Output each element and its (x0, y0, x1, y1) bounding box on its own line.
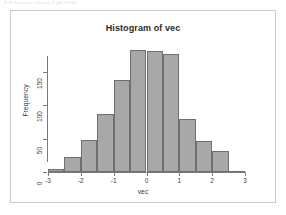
x-axis-tick (245, 172, 246, 176)
x-axis-tick-label: 0 (140, 177, 154, 184)
histogram-bar (212, 151, 228, 172)
y-axis-tick-label: 150 (36, 71, 43, 95)
x-axis-tick (48, 172, 49, 176)
x-axis-tick-label: 3 (238, 177, 252, 184)
histogram-bar (196, 141, 212, 172)
histogram-bar (81, 140, 97, 172)
y-axis-tick-label: 100 (36, 105, 43, 129)
x-axis-tick (212, 172, 213, 176)
histogram-bar (97, 114, 113, 172)
histogram-bar (130, 50, 146, 172)
x-axis-label: vec (11, 188, 275, 195)
histogram-bar (64, 157, 80, 172)
y-axis-tick (43, 72, 47, 73)
plot-frame: Histogram of vec 050100150 Frequency -3-… (10, 10, 276, 203)
x-axis-tick-label: 1 (172, 177, 186, 184)
histogram-bar (147, 51, 163, 172)
plot-area: Histogram of vec 050100150 Frequency -3-… (11, 11, 275, 202)
y-axis-tick (43, 172, 47, 173)
y-axis-line (47, 56, 48, 162)
x-axis-tick-label: -3 (41, 177, 55, 184)
histogram-bars (11, 11, 275, 202)
histogram-bar (163, 54, 179, 172)
y-axis-label: Frequency (22, 71, 29, 131)
x-axis-tick-label: -2 (74, 177, 88, 184)
x-axis-tick (147, 172, 148, 176)
y-axis-tick (43, 139, 47, 140)
x-axis-tick (114, 172, 115, 176)
x-axis-tick-label: -1 (107, 177, 121, 184)
histogram-bar (114, 80, 130, 172)
window-title-text: R R Graphics: Device 2 (ACTIVE) (4, 0, 76, 5)
y-axis-tick-label: 50 (36, 138, 43, 162)
x-axis-tick-label: 2 (205, 177, 219, 184)
y-axis-tick (43, 105, 47, 106)
x-axis-tick (179, 172, 180, 176)
histogram-bar (179, 119, 195, 172)
x-axis-tick (81, 172, 82, 176)
chart-title: Histogram of vec (11, 23, 275, 33)
